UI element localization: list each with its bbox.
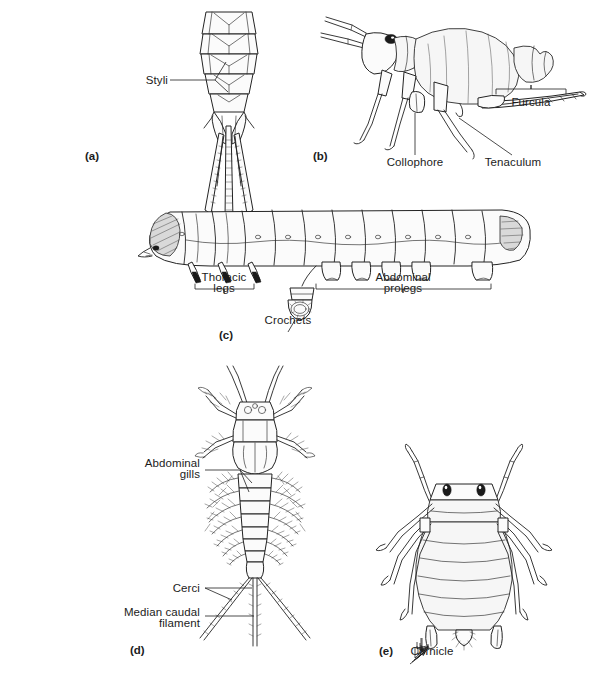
panel-e-artwork: [376, 444, 552, 650]
panel-label-a: (a): [85, 150, 99, 162]
panel-d-artwork: [195, 366, 315, 646]
panel-label-b: (b): [313, 150, 328, 162]
label-cornicle: Cornicle: [392, 645, 472, 658]
label-crochets: Crochets: [250, 314, 326, 327]
panel-a-artwork: [200, 12, 258, 232]
foreleg-right: [274, 387, 312, 418]
label-styli: Styli: [100, 74, 168, 87]
cerci-leader: [205, 588, 252, 600]
tenaculum-leader: [459, 118, 512, 155]
panel-label-e: (e): [379, 645, 393, 657]
label-thoracic-legs-line2: legs: [190, 282, 258, 295]
label-cerci: Cerci: [120, 582, 200, 595]
figure-container: Styli (a) Collophore Tenaculum Furcula (…: [0, 0, 592, 683]
panel-label-c: (c): [219, 329, 233, 341]
label-abdominal-prolegs-line2: prolegs: [359, 282, 447, 295]
panel-c-artwork: [138, 210, 530, 320]
panel-b-artwork: [321, 17, 586, 159]
label-median-caudal-line2: filament: [90, 617, 200, 630]
midleg-right: [277, 433, 315, 458]
label-furcula: Furcula: [496, 96, 566, 109]
midleg-left: [195, 433, 233, 458]
label-abdominal-gills-line2: gills: [100, 468, 200, 481]
panel-label-d: (d): [130, 644, 145, 656]
foreleg-left: [198, 387, 236, 418]
label-tenaculum: Tenaculum: [455, 156, 571, 169]
